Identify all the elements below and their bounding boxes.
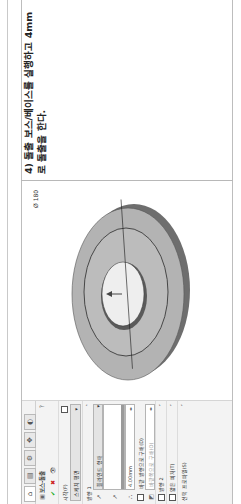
property-manager: ⌂ ▤ ⚙ ✥ ◐ ▣ 보스-돌출 ? ✔ ✖ 👁 시작(F) [22,400,232,504]
rotated-page: 4) 돌출 보스/베이스를 실행하고 4mm로 돌출을 한다. ⌂ ▤ ⚙ ✥ … [0,0,241,504]
collapse-toggle[interactable] [61,406,68,413]
draft-label: 바깥 방향으로 구배(D) [137,438,144,489]
graphics-viewport[interactable]: Ø 180 [22,181,232,400]
cancel-button[interactable]: ✖ [49,480,56,485]
from-label: 시작(F) [61,484,68,501]
selected-contours-header[interactable]: 선택 프로파일(S) ˅ [178,401,188,504]
configuration-icon[interactable]: ⚙ [24,450,36,466]
from-select[interactable]: 스케치 평면 ▾ [70,404,81,501]
selection-highlight [121,405,124,489]
display-manager-icon[interactable]: ◐ [24,414,36,430]
solidworks-screenshot: ⌂ ▤ ⚙ ✥ ◐ ▣ 보스-돌출 ? ✔ ✖ 👁 시작(F) [22,181,232,504]
thin-feature-checkbox[interactable] [169,494,176,501]
direction1-section: 방향 1 ˄ ↗ 블라인드 형태 ▾ ↗ ⛬ [82,401,155,504]
chevron-down-icon: ˅ [169,404,175,407]
end-condition-select[interactable]: 블라인드 형태 ▾ [93,404,103,490]
depth-icon: ⛬ [126,493,134,501]
direction-selection-box[interactable] [103,404,125,490]
draft-row: ◩ 바깥쪽으로 구배(O) ◂▸ [145,401,155,504]
extrude-icon: ▣ [38,493,45,501]
spinner-icon[interactable]: ◂▸ [148,405,153,411]
direction1-header[interactable]: 방향 1 ˄ [83,401,93,504]
thin-feature-header[interactable]: 얇은 피처(T) ˅ [167,401,177,504]
reverse-direction-icon[interactable]: ↗ [95,493,102,501]
selected-contours-label: 선택 프로파일(S) [180,462,187,501]
merge-row: 바깥 방향으로 구배(D) [135,401,145,504]
chevron-down-icon: ˅ [180,404,186,407]
draft-icon: ◩ [147,493,154,501]
help-icon[interactable]: ? [38,405,45,408]
thin-feature-section: 얇은 피처(T) ˅ [166,401,177,504]
depth-value: 4.00mm [127,466,133,487]
direction-vector-row: ↗ [103,401,125,504]
page-margin-rule [7,0,8,504]
end-condition-row: ↗ 블라인드 형태 ▾ [93,401,103,504]
dimxpert-icon[interactable]: ✥ [24,432,36,448]
from-value: 스케치 평면 [72,470,79,497]
chevron-down-icon: ˅ [158,404,164,407]
direction2-label: 방향 2 [158,477,164,492]
draft-placeholder: 바깥쪽으로 구배(O) [147,443,154,487]
from-header[interactable]: 시작(F) [59,401,69,504]
direction-arrow-icon: ↗ [111,493,118,501]
from-section: 시작(F) 스케치 평면 ▾ [58,401,81,504]
property-manager-icon[interactable]: ▤ [24,468,36,484]
manager-tabs: ⌂ ▤ ⚙ ✥ ◐ [22,401,36,504]
ok-button[interactable]: ✔ [49,491,56,496]
direction1-label: 방향 1 [85,486,92,501]
action-buttons: ✔ ✖ 👁 [47,401,58,504]
instruction-text: 4) 돌출 보스/베이스를 실행하고 4mm로 돌출을 한다. [22,4,48,174]
feature-title: 보스-돌출 [38,471,46,493]
draft-input[interactable]: 바깥쪽으로 구배(O) ◂▸ [145,404,155,490]
chevron-down-icon: ▾ [73,408,79,411]
depth-row: ⛬ 4.00mm ◂▸ [125,401,135,504]
end-condition-value: 블라인드 형태 [95,455,102,487]
diameter-dimension-label[interactable]: Ø 180 [32,190,39,208]
chevron-down-icon: ▾ [95,405,101,408]
extruded-ring-model [22,181,232,400]
direction2-checkbox[interactable] [158,494,165,501]
thin-feature-label: 얇은 피처(T) [169,463,175,492]
feature-manager-icon[interactable]: ⌂ [24,486,36,502]
selected-contours-section: 선택 프로파일(S) ˅ [177,401,188,504]
spinner-icon[interactable]: ◂▸ [128,405,133,411]
direction2-header[interactable]: 방향 2 ˅ [156,401,166,504]
preview-button[interactable]: 👁 [49,466,56,474]
pm-header: ▣ 보스-돌출 ? [36,401,47,504]
draft-checkbox[interactable] [137,494,144,501]
direction2-section: 방향 2 ˅ [155,401,166,504]
chevron-up-icon: ˄ [85,404,91,407]
depth-input[interactable]: 4.00mm ◂▸ [125,404,135,490]
